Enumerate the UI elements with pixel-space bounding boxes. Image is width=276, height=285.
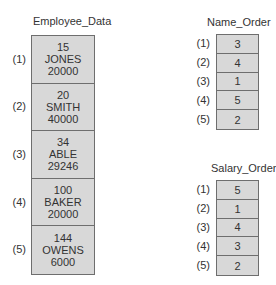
record-salary: 20000	[48, 65, 79, 77]
salary-order-label: (1)	[190, 183, 210, 195]
employee-record: 144 OWENS 6000	[32, 226, 94, 274]
record-name: JONES	[45, 53, 82, 65]
record-salary: 6000	[51, 256, 75, 268]
salary-order-cell: 3	[217, 237, 258, 256]
name-order-label: (4)	[190, 94, 210, 106]
employee-row-label: (3)	[6, 148, 26, 160]
salary-order-cell: 2	[217, 256, 258, 275]
record-id: 20	[57, 89, 69, 101]
record-name: BAKER	[44, 196, 81, 208]
name-order-cell: 4	[217, 54, 258, 73]
name-order-cell: 2	[217, 110, 258, 129]
employee-row-label: (2)	[6, 100, 26, 112]
name-order-title: Name_Order	[207, 16, 271, 28]
salary-order-cell: 4	[217, 219, 258, 238]
record-salary: 40000	[48, 113, 79, 125]
record-id: 144	[54, 232, 72, 244]
record-id: 34	[57, 136, 69, 148]
salary-order-label: (3)	[190, 221, 210, 233]
record-name: OWENS	[42, 244, 84, 256]
record-id: 100	[54, 184, 72, 196]
salary-order-cell: 5	[217, 181, 258, 200]
name-order-label: (3)	[190, 75, 210, 87]
salary-order-array: 5 1 4 3 2	[216, 180, 259, 276]
name-order-cell: 3	[217, 35, 258, 54]
record-name: SMITH	[46, 101, 80, 113]
name-order-cell: 5	[217, 91, 258, 110]
employee-row-label: (4)	[6, 196, 26, 208]
name-order-label: (5)	[190, 113, 210, 125]
salary-order-label: (2)	[190, 202, 210, 214]
salary-order-cell: 1	[217, 200, 258, 219]
employee-data-title: Employee_Data	[33, 15, 111, 27]
employee-row-label: (5)	[6, 243, 26, 255]
name-order-array: 3 4 1 5 2	[216, 34, 259, 130]
employee-record: 100 BAKER 20000	[32, 179, 94, 227]
salary-order-label: (5)	[190, 259, 210, 271]
record-name: ABLE	[49, 148, 77, 160]
record-salary: 29246	[48, 160, 79, 172]
name-order-cell: 1	[217, 73, 258, 92]
employee-data-array: 15 JONES 20000 20 SMITH 40000 34 ABLE 29…	[31, 35, 95, 275]
name-order-label: (1)	[190, 37, 210, 49]
record-id: 15	[57, 41, 69, 53]
salary-order-label: (4)	[190, 240, 210, 252]
name-order-label: (2)	[190, 56, 210, 68]
employee-record: 20 SMITH 40000	[32, 84, 94, 132]
record-salary: 20000	[48, 208, 79, 220]
employee-row-label: (1)	[6, 53, 26, 65]
salary-order-title: Salary_Order	[211, 162, 276, 174]
employee-record: 34 ABLE 29246	[32, 131, 94, 179]
employee-record: 15 JONES 20000	[32, 36, 94, 84]
